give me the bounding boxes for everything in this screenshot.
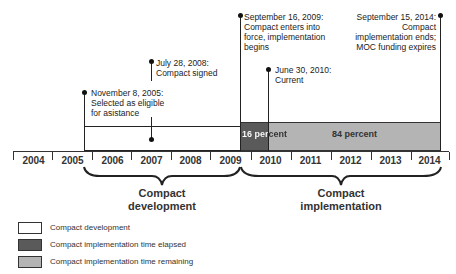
legend-swatch-white (18, 222, 42, 234)
annotation-jun2010: June 30, 2010: Current (275, 65, 331, 85)
event-dot-jun2010 (266, 67, 271, 72)
event-dot-sep2009 (238, 13, 243, 18)
bar-compact-development (84, 126, 240, 151)
year-label-2004: 2004 (14, 155, 53, 166)
brace-implementation-icon (237, 165, 445, 189)
annotation-nov2005: November 8, 2005: Selected as eligible f… (91, 88, 164, 118)
event-dot-jul2008-upper (149, 59, 154, 64)
bar-label-elapsed: 16 percent (242, 129, 287, 139)
event-dot-sep2014 (438, 13, 443, 18)
event-line-jul2008-lower (151, 117, 152, 138)
event-line-jul2008-upper (151, 61, 152, 81)
annotation-sep2009: September 16, 2009: Compact enters into … (244, 12, 325, 52)
event-dot-jul2008-lower (149, 137, 154, 142)
annotation-jul2008: July 28, 2008: Compact signed (156, 58, 217, 78)
event-line-sep2009 (240, 15, 241, 151)
axis-tick (449, 152, 450, 160)
event-line-nov2005 (84, 93, 85, 151)
annotation-sep2014: September 15, 2014: Compact implementati… (355, 12, 436, 52)
event-line-jun2010 (268, 69, 269, 151)
brace-development-icon (80, 165, 244, 189)
legend-swatch-dark (18, 239, 42, 251)
bar-label-remaining: 84 percent (332, 129, 377, 139)
legend-swatch-light (18, 256, 42, 268)
event-line-sep2014 (440, 15, 441, 151)
brace-label-implementation: Compact implementation (291, 187, 391, 213)
event-dot-nov2005 (82, 90, 87, 95)
brace-label-development: Compact development (112, 187, 212, 213)
year-axis-line (13, 151, 449, 152)
